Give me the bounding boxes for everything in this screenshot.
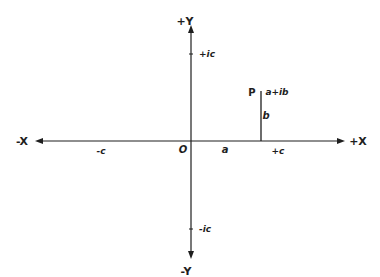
point-value-label: a+ib <box>265 88 288 97</box>
positive-x-label: +X <box>349 136 367 147</box>
negative-x-label: -X <box>16 136 28 147</box>
y-axis <box>188 25 194 259</box>
diagram-canvas <box>0 0 380 277</box>
x-axis-negative-arrow-icon <box>35 138 43 144</box>
negative-imaginary-tick-label: -ic <box>199 225 211 234</box>
point-name-label: P <box>248 88 255 98</box>
negative-real-tick-label: -c <box>96 147 105 156</box>
positive-real-tick-label: +c <box>272 147 285 156</box>
positive-y-label: +Y <box>176 16 193 27</box>
negative-y-label: -Y <box>181 266 192 277</box>
y-axis-negative-arrow-icon <box>188 251 194 259</box>
positive-imaginary-tick-label: +ic <box>199 50 215 59</box>
x-axis <box>35 138 345 144</box>
real-part-label: a <box>222 145 229 155</box>
origin-label: O <box>179 145 188 155</box>
imaginary-part-label: b <box>262 111 269 121</box>
x-axis-positive-arrow-icon <box>337 138 345 144</box>
